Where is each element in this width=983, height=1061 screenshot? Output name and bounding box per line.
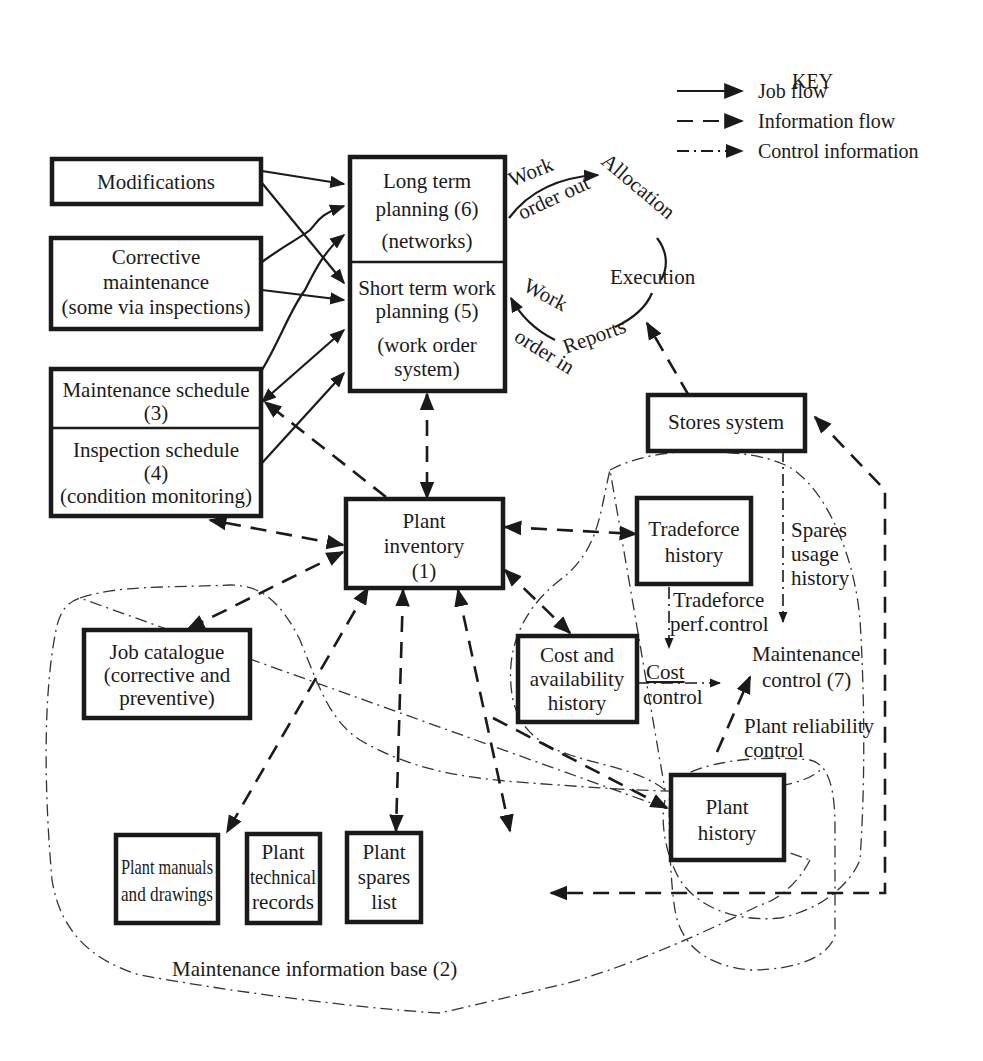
box-manuals-line2: and drawings [121, 882, 213, 906]
tradeforce-perf-label-1: Tradeforce [673, 588, 764, 612]
box-inventory-line1: Plant [402, 509, 445, 533]
spares-usage-label-1: Spares [791, 518, 847, 542]
box-corrective-line2: maintenance [103, 270, 209, 294]
box-job-catalogue-line2: (corrective and [104, 663, 231, 687]
allocation-label: Allocation [597, 148, 681, 224]
box-manuals-line1: Plant manuals [121, 855, 213, 879]
box-long-term-line2: planning (6) [375, 197, 478, 221]
box-spares-line2: spares [358, 865, 410, 889]
box-tradeforce-line2: history [665, 543, 724, 567]
legend-label-info-flow: Information flow [758, 110, 896, 132]
box-maint-schedule-line1: Maintenance schedule [62, 378, 249, 402]
box-short-term-line4: system) [394, 357, 459, 381]
box-plant-spares-list[interactable]: Plant spares list [347, 833, 421, 922]
box-plant-inventory[interactable]: Plant inventory (1) [346, 499, 503, 588]
box-inventory-line3: (1) [412, 559, 437, 583]
box-job-catalogue[interactable]: Job catalogue (corrective and preventive… [84, 630, 250, 718]
box-corrective-line1: Corrective [112, 245, 201, 269]
plant-reliability-label-1: Plant reliability [744, 714, 875, 738]
box-maint-schedule-line2: (3) [144, 401, 169, 425]
box-plant-history[interactable]: Plant history [671, 775, 784, 860]
legend-label-job-flow: Job flow [758, 80, 828, 102]
work-order-in-label-1: Work [520, 273, 572, 316]
box-inventory-line2: inventory [384, 534, 465, 558]
spares-usage-label-2: usage [791, 542, 839, 566]
spares-usage-label-3: history [791, 566, 850, 590]
box-job-catalogue-line3: preventive) [119, 686, 215, 710]
box-inspection-line3: (condition monitoring) [60, 484, 252, 508]
box-corrective-line3: (some via inspections) [62, 295, 251, 319]
box-modifications-label: Modifications [97, 170, 215, 194]
box-spares-line1: Plant [362, 840, 405, 864]
box-plant-history-line1: Plant [705, 795, 748, 819]
box-maintenance-inspection-schedule[interactable]: Maintenance schedule (3) Inspection sche… [51, 369, 261, 516]
box-stores-system[interactable]: Stores system [648, 395, 805, 451]
box-short-term-line3: (work order [377, 333, 477, 357]
box-inspection-line2: (4) [144, 461, 169, 485]
box-cost-line1: Cost and [540, 643, 615, 667]
box-plant-manuals[interactable]: Plant manuals and drawings [116, 835, 218, 923]
box-corrective-maintenance[interactable]: Corrective maintenance (some via inspect… [51, 238, 261, 329]
box-modifications[interactable]: Modifications [52, 159, 261, 204]
box-tech-records-line2: technical [250, 865, 316, 889]
box-tech-records-line3: records [252, 890, 314, 914]
box-short-term-line1: Short term work [358, 276, 496, 300]
legend: KEY Job flow Information flow Control in… [677, 70, 919, 162]
box-stores-label: Stores system [668, 410, 784, 434]
box-tech-records-line1: Plant [261, 840, 304, 864]
box-inspection-line1: Inspection schedule [73, 438, 239, 462]
box-plant-history-line2: history [698, 821, 757, 845]
legend-label-control-info: Control information [758, 140, 919, 162]
cost-control-label-1: Cost [646, 660, 685, 684]
box-plant-technical-records[interactable]: Plant technical records [247, 834, 320, 923]
box-cost-availability-history[interactable]: Cost and availability history [518, 636, 637, 722]
plant-reliability-label-2: control [744, 738, 804, 762]
execution-label: Execution [610, 265, 696, 289]
tradeforce-perf-label-2: perf.control [670, 612, 769, 636]
information-base-label: Maintenance information base (2) [172, 957, 457, 981]
cost-control-label-2: control [643, 685, 703, 709]
reports-label: Reports [560, 314, 630, 359]
work-cycle: Work order out Allocation Execution Work… [505, 148, 696, 379]
box-tradeforce-line1: Tradeforce [648, 517, 739, 541]
maintenance-control-label-2: control (7) [762, 668, 851, 692]
job-flow-arrows [262, 171, 344, 463]
box-long-term-line3: (networks) [382, 229, 473, 253]
box-cost-line2: availability [530, 667, 625, 691]
maintenance-system-diagram: KEY Job flow Information flow Control in… [0, 0, 983, 1061]
box-long-term-line1: Long term [383, 169, 471, 193]
box-tradeforce-history[interactable]: Tradeforce history [637, 498, 751, 584]
box-spares-line3: list [371, 890, 397, 914]
maintenance-control-label-1: Maintenance [752, 642, 860, 666]
box-planning[interactable]: Long term planning (6) (networks) Short … [350, 157, 505, 391]
box-job-catalogue-line1: Job catalogue [110, 640, 225, 664]
box-cost-line3: history [548, 691, 607, 715]
box-short-term-line2: planning (5) [375, 299, 478, 323]
